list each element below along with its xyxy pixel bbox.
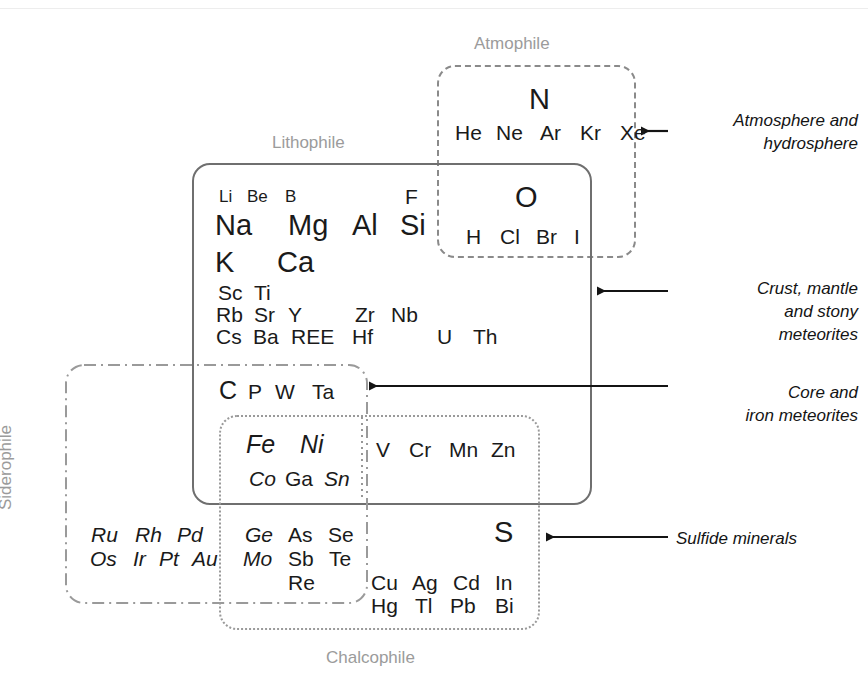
element-symbol-s: S — [494, 518, 513, 547]
annotation-sulfide: Sulfide minerals — [676, 528, 858, 551]
element-symbol-sc: Sc — [218, 282, 243, 303]
element-symbol-ar: Ar — [540, 122, 561, 143]
element-symbol-mg: Mg — [288, 211, 328, 240]
element-symbol-c: C — [219, 378, 237, 403]
element-symbol-na: Na — [215, 211, 252, 240]
element-symbol-hg: Hg — [371, 595, 398, 616]
element-symbol-p: P — [248, 381, 262, 402]
element-symbol-xe: Xe — [620, 122, 646, 143]
element-symbol-ne: Ne — [496, 122, 523, 143]
element-symbol-rb: Rb — [216, 304, 243, 325]
element-symbol-th: Th — [473, 326, 498, 347]
lithophile-group-label: Lithophile — [272, 133, 345, 153]
element-symbol-k: K — [215, 248, 234, 277]
element-symbol-cs: Cs — [216, 326, 242, 347]
annotation-atmosphere: Atmosphere and hydrosphere — [676, 110, 858, 156]
element-symbol-cr: Cr — [409, 439, 431, 460]
element-symbol-hf: Hf — [352, 326, 373, 347]
scan-artifact-line — [0, 8, 868, 9]
siderophile-group-label: Siderophile — [0, 425, 16, 510]
element-symbol-w: W — [275, 381, 295, 402]
element-symbol-pd: Pd — [177, 524, 203, 545]
annotation-crust: Crust, mantle and stony meteorites — [676, 278, 858, 347]
element-symbol-y: Y — [288, 304, 302, 325]
element-symbol-in: In — [495, 572, 513, 593]
element-symbol-sr: Sr — [254, 304, 275, 325]
element-symbol-ba: Ba — [253, 326, 279, 347]
chalcophile-group-label: Chalcophile — [326, 648, 415, 668]
element-symbol-ree: REE — [291, 326, 334, 347]
annotation-core: Core and iron meteorites — [676, 382, 858, 428]
element-symbol-re: Re — [288, 572, 315, 593]
element-symbol-nb: Nb — [391, 304, 418, 325]
element-symbol-sn: Sn — [324, 468, 350, 489]
element-symbol-as: As — [288, 524, 313, 545]
element-symbol-zn: Zn — [491, 439, 516, 460]
element-symbol-pb: Pb — [450, 595, 476, 616]
element-symbol-rh: Rh — [135, 524, 162, 545]
element-symbol-au: Au — [192, 548, 218, 569]
element-symbol-bi: Bi — [495, 595, 514, 616]
element-symbol-sb: Sb — [288, 548, 314, 569]
atmophile-group-label: Atmophile — [474, 34, 550, 54]
figure-canvas: Atmophile Lithophile Siderophile Chalcop… — [0, 0, 868, 700]
element-symbol-zr: Zr — [355, 304, 375, 325]
element-symbol-i: I — [574, 226, 580, 247]
element-symbol-ta: Ta — [312, 381, 334, 402]
element-symbol-b: B — [285, 188, 296, 205]
element-symbol-ga: Ga — [285, 468, 313, 489]
element-symbol-v: V — [376, 439, 390, 460]
element-symbol-ru: Ru — [91, 524, 118, 545]
element-symbol-f: F — [405, 186, 418, 207]
element-symbol-u: U — [437, 326, 452, 347]
element-symbol-ni: Ni — [300, 432, 324, 457]
element-symbol-be: Be — [247, 188, 268, 205]
element-symbol-os: Os — [90, 548, 117, 569]
element-symbol-fe: Fe — [246, 432, 275, 457]
element-symbol-n: N — [529, 85, 550, 114]
element-symbol-h: H — [466, 226, 481, 247]
element-symbol-he: He — [455, 122, 482, 143]
element-symbol-al: Al — [352, 211, 378, 240]
element-symbol-cu: Cu — [371, 572, 398, 593]
element-symbol-cl: Cl — [500, 226, 520, 247]
element-symbol-cd: Cd — [453, 572, 480, 593]
element-symbol-te: Te — [329, 548, 351, 569]
element-symbol-ir: Ir — [133, 548, 146, 569]
element-symbol-ti: Ti — [254, 282, 271, 303]
element-symbol-mo: Mo — [243, 548, 272, 569]
element-symbol-kr: Kr — [580, 122, 601, 143]
element-symbol-se: Se — [328, 524, 354, 545]
element-symbol-mn: Mn — [449, 439, 478, 460]
element-symbol-ca: Ca — [277, 248, 314, 277]
element-symbol-tl: Tl — [415, 595, 433, 616]
element-symbol-br: Br — [536, 226, 557, 247]
element-symbol-li: Li — [219, 188, 232, 205]
element-symbol-o: O — [515, 183, 538, 212]
element-symbol-si: Si — [400, 211, 426, 240]
element-symbol-ag: Ag — [412, 572, 438, 593]
element-symbol-co: Co — [249, 468, 276, 489]
element-symbol-ge: Ge — [245, 524, 273, 545]
element-symbol-pt: Pt — [159, 548, 179, 569]
